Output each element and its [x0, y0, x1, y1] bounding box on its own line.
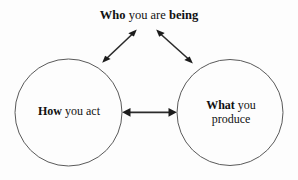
node-label-what-you-produce: What you produce [180, 98, 282, 126]
node-label-being-part-3: being [169, 8, 198, 22]
node-label-produce-line-2: produce [180, 112, 282, 126]
connector-being-to-produce [156, 30, 193, 64]
node-label-being: Who you are being [74, 8, 224, 23]
connector-act-to-produce [122, 108, 177, 117]
node-label-being-part-1: Who [100, 8, 126, 22]
node-label-produce-part-1: What [206, 98, 235, 112]
node-label-act-line-1: How you act [14, 104, 124, 118]
node-label-being-part-2: you are [129, 8, 166, 22]
diagram-canvas: Who you are being How you act What you p… [0, 0, 298, 180]
connector-being-to-act [102, 30, 137, 63]
node-label-produce-part-2: you [238, 98, 256, 112]
node-label-act-part-1: How [38, 104, 62, 118]
diagram-graphics [0, 0, 298, 180]
node-label-how-you-act: How you act [14, 104, 124, 118]
node-label-act-part-2: you act [65, 104, 100, 118]
node-label-produce-line-1: What you [180, 98, 282, 112]
